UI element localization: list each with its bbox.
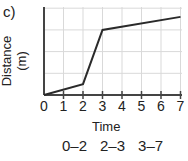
- x-tick-label: 0: [37, 98, 51, 114]
- x-tick-label: 1: [57, 98, 71, 114]
- x-tick-label: 6: [154, 98, 168, 114]
- y-axis-label: Distance (m): [0, 26, 29, 96]
- data-line: [44, 17, 181, 95]
- interval-label: 2–3: [100, 137, 125, 154]
- interval-label: 3–7: [138, 137, 163, 154]
- x-tick-label: 4: [115, 98, 129, 114]
- interval-label: 0–2: [62, 137, 87, 154]
- x-tick-label: 7: [174, 98, 188, 114]
- x-tick-label: 2: [76, 98, 90, 114]
- x-tick-label: 5: [135, 98, 149, 114]
- x-tick-label: 3: [96, 98, 110, 114]
- interval-labels: 0–22–33–7: [62, 137, 176, 154]
- x-axis-label: Time: [92, 119, 120, 134]
